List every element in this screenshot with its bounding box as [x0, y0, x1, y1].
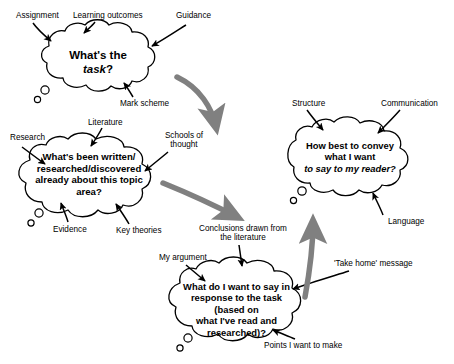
bubble-text-task: What's the task? [58, 48, 138, 76]
label-learning-outcomes: Learning outcomes [73, 11, 143, 20]
label-mark-scheme: Mark scheme [120, 99, 169, 108]
diagram-canvas: What's the task? What's been written/ re… [0, 0, 454, 364]
label-guidance: Guidance [176, 11, 211, 20]
label-key-theories: Key theories [116, 226, 162, 235]
label-conclusions: Conclusions drawn from the literature [193, 224, 293, 243]
label-language: Language [388, 217, 424, 226]
label-communication: Communication [381, 99, 438, 108]
label-take-home: 'Take home' message [334, 259, 413, 268]
label-schools-of-thought: Schools of thought [162, 131, 206, 150]
label-research: Research [10, 133, 45, 142]
bubble-text-argument: What do I want to say in response to the… [180, 281, 293, 338]
label-literature: Literature [88, 118, 123, 127]
label-points-to-make: Points I want to make [264, 341, 342, 350]
bubble-text-literature: What's been written/ researched/discover… [32, 151, 146, 198]
label-assignment: Assignment [16, 11, 59, 20]
label-my-argument: My argument [159, 253, 207, 262]
bubble-text-convey: How best to convey what I want to say to… [295, 140, 405, 174]
label-evidence: Evidence [53, 225, 87, 234]
label-structure: Structure [292, 99, 325, 108]
